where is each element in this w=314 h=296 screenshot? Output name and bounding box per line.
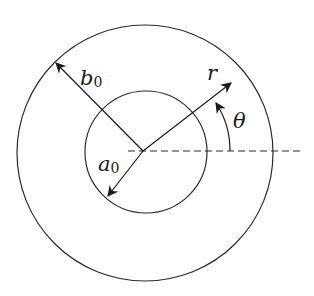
r-radius-arrow <box>143 83 231 151</box>
b0-label: b0 <box>80 66 102 90</box>
theta-label: θ <box>233 109 246 133</box>
r-label: r <box>207 61 219 85</box>
annulus-diagram: b0 a0 r θ <box>0 0 314 296</box>
theta-angle-arc <box>216 103 230 151</box>
a0-label: a0 <box>98 152 119 176</box>
outer-circle <box>17 25 273 281</box>
